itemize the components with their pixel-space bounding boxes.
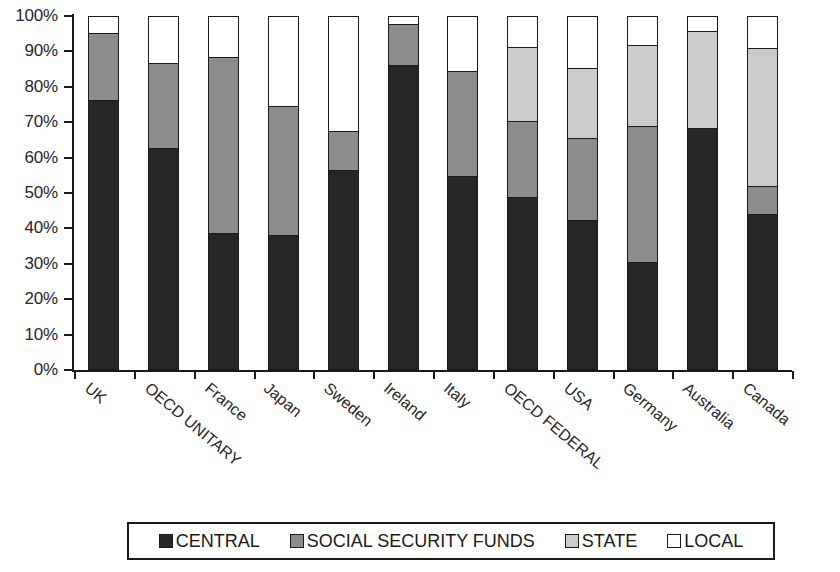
y-axis-tick: [64, 334, 73, 336]
bar-segment-social-security-funds: [568, 138, 597, 219]
bar-segment-central: [329, 170, 358, 369]
bar-oecd-federal[interactable]: [507, 16, 538, 370]
y-axis-tick: [64, 263, 73, 265]
x-axis-tick-label: UK: [82, 380, 109, 407]
y-axis-tick-label: 80%: [0, 78, 58, 95]
y-axis-tick: [64, 121, 73, 123]
bar-segment-social-security-funds: [389, 24, 418, 65]
y-axis-tick: [64, 298, 73, 300]
legend-item-state[interactable]: STATE: [565, 532, 637, 550]
bar-segment-social-security-funds: [748, 186, 777, 215]
bar-segment-central: [389, 65, 418, 369]
bar-germany[interactable]: [627, 16, 658, 370]
bar-japan[interactable]: [268, 16, 299, 370]
y-axis-tick: [64, 369, 73, 371]
bar-segment-local: [149, 17, 178, 63]
bar-segment-local: [688, 17, 717, 31]
bar-segment-local: [329, 17, 358, 131]
bar-ireland[interactable]: [388, 16, 419, 370]
x-axis-tick: [792, 371, 794, 379]
chart-legend: CENTRALSOCIAL SECURITY FUNDSSTATELOCAL: [127, 522, 775, 560]
bar-segment-social-security-funds: [209, 57, 238, 233]
x-axis-tick-label: Australia: [680, 380, 738, 432]
bar-segment-local: [448, 17, 477, 71]
bar-oecd-unitary[interactable]: [148, 16, 179, 370]
legend-swatch-icon: [565, 534, 579, 548]
x-axis-tick-label: France: [201, 380, 249, 424]
bar-segment-local: [568, 17, 597, 68]
y-axis-tick-label: 40%: [0, 219, 58, 236]
bar-segment-social-security-funds: [448, 71, 477, 175]
bar-sweden[interactable]: [328, 16, 359, 370]
x-axis-tick-label: Japan: [261, 380, 305, 420]
x-axis-tick: [553, 371, 555, 379]
legend-item-label: LOCAL: [684, 532, 743, 550]
bar-segment-local: [209, 17, 238, 57]
bar-segment-central: [89, 100, 118, 369]
bar-segment-social-security-funds: [149, 63, 178, 148]
bar-segment-central: [628, 262, 657, 369]
x-axis-tick: [194, 371, 196, 379]
bar-segment-social-security-funds: [329, 131, 358, 171]
x-axis-tick: [373, 371, 375, 379]
bar-segment-social-security-funds: [508, 121, 537, 197]
bar-segment-central: [748, 214, 777, 369]
y-axis-tick: [64, 157, 73, 159]
x-axis-tick-label: Canada: [740, 380, 793, 428]
bar-segment-local: [89, 17, 118, 33]
bar-segment-state: [748, 48, 777, 185]
y-axis-tick: [64, 15, 73, 17]
legend-item-label: SOCIAL SECURITY FUNDS: [307, 532, 535, 550]
x-axis-tick: [672, 371, 674, 379]
legend-item-label: CENTRAL: [176, 532, 260, 550]
bar-canada[interactable]: [747, 16, 778, 370]
x-axis-line: [72, 370, 792, 372]
stacked-bar-chart: 0%10%20%30%40%50%60%70%80%90%100% UKOECD…: [0, 0, 840, 572]
x-axis-tick-label: Sweden: [321, 380, 376, 429]
y-axis-tick-label: 60%: [0, 149, 58, 166]
x-axis-tick-label: Germany: [620, 380, 681, 435]
bar-segment-social-security-funds: [269, 106, 298, 235]
x-axis-tick-label: Italy: [441, 380, 474, 411]
x-axis-tick: [613, 371, 615, 379]
bar-segment-central: [269, 235, 298, 369]
legend-item-central[interactable]: CENTRAL: [159, 532, 260, 550]
y-axis-tick-label: 50%: [0, 184, 58, 201]
bar-segment-central: [209, 233, 238, 369]
bar-segment-central: [688, 128, 717, 369]
x-axis-tick-label: OECD FEDERAL: [500, 380, 606, 472]
x-axis-tick: [313, 371, 315, 379]
legend-item-local[interactable]: LOCAL: [667, 532, 743, 550]
x-axis-tick: [732, 371, 734, 379]
bar-segment-social-security-funds: [89, 33, 118, 101]
x-axis-tick-label: USA: [560, 380, 595, 413]
bar-segment-local: [748, 17, 777, 48]
y-axis-tick-label: 70%: [0, 113, 58, 130]
bar-uk[interactable]: [88, 16, 119, 370]
legend-swatch-icon: [159, 534, 173, 548]
bar-segment-state: [508, 47, 537, 121]
y-axis-tick-label: 20%: [0, 290, 58, 307]
legend-item-label: STATE: [582, 532, 637, 550]
y-axis-tick-label: 90%: [0, 42, 58, 59]
y-axis-tick: [64, 86, 73, 88]
bar-australia[interactable]: [687, 16, 718, 370]
x-axis-tick-label: Ireland: [381, 380, 429, 424]
y-axis-tick: [64, 50, 73, 52]
bar-segment-local: [389, 17, 418, 24]
bar-segment-central: [508, 197, 537, 369]
bar-france[interactable]: [208, 16, 239, 370]
bar-italy[interactable]: [447, 16, 478, 370]
x-axis-tick: [134, 371, 136, 379]
bar-segment-state: [628, 45, 657, 126]
plot-area: [72, 16, 790, 370]
bar-usa[interactable]: [567, 16, 598, 370]
y-axis-tick-label: 0%: [0, 361, 58, 378]
legend-item-social-security-funds[interactable]: SOCIAL SECURITY FUNDS: [290, 532, 535, 550]
y-axis-tick-label: 30%: [0, 255, 58, 272]
y-axis-tick: [64, 227, 73, 229]
x-axis-tick: [433, 371, 435, 379]
bar-segment-central: [149, 148, 178, 370]
y-axis-tick-label: 10%: [0, 326, 58, 343]
bar-segment-social-security-funds: [628, 126, 657, 261]
